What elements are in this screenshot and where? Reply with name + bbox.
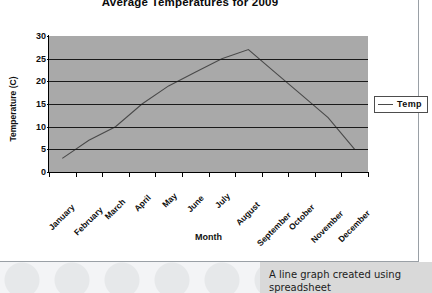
x-axis-tick-mark [262, 173, 263, 177]
figure-caption-text: A line graph created using spreadsheet [269, 268, 424, 293]
x-axis-label-group: JanuaryFebruaryMarchAprilMayJuneJulyAugu… [0, 0, 432, 293]
x-axis-tick-mark [235, 173, 236, 177]
x-axis-tick-label: May [160, 191, 179, 210]
x-axis-tick-label: March [103, 197, 128, 222]
x-axis-tick-mark [341, 173, 342, 177]
figure-caption: A line graph created using spreadsheet [260, 262, 432, 293]
x-axis-title: Month [49, 232, 368, 242]
x-axis-tick-mark [182, 173, 183, 177]
x-axis-tick-mark [315, 173, 316, 177]
x-axis-tick-label: September [255, 210, 293, 248]
document-panel: Average Temperatures for 2009 Temperatur… [0, 0, 419, 262]
x-axis-tick-label: April [132, 193, 153, 214]
x-axis-tick-label: June [185, 193, 206, 214]
legend-entry-label: Temp [397, 99, 422, 109]
chart-legend: Temp [374, 96, 428, 113]
x-axis-tick-mark [76, 173, 77, 177]
x-axis-tick-mark [155, 173, 156, 177]
x-axis-tick-mark [209, 173, 210, 177]
x-axis-tick-mark [49, 173, 50, 177]
x-axis-tick-label: January [47, 202, 77, 232]
x-axis-tick-label: July [213, 191, 232, 210]
x-axis-tick-mark [288, 173, 289, 177]
x-axis-tick-mark [368, 173, 369, 177]
legend-line-swatch-icon [378, 104, 393, 105]
screenshot-root: Average Temperatures for 2009 Temperatur… [0, 0, 432, 293]
x-axis-tick-mark [102, 173, 103, 177]
x-axis-tick-mark [129, 173, 130, 177]
x-axis-tick-label: August [234, 200, 262, 228]
